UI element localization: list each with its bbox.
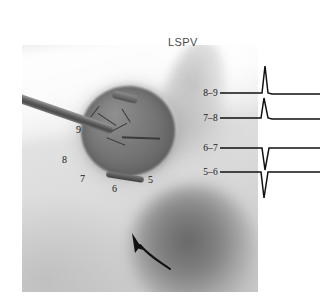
endoscopic-photograph: 9 8 7 6 5 (22, 45, 258, 292)
site-number-8: 8 (62, 155, 67, 165)
curved-arrow-icon (118, 223, 174, 271)
site-number-7: 7 (80, 174, 85, 184)
site-number-5: 5 (148, 175, 153, 185)
trace-label-6-7: 6–7 (192, 143, 218, 153)
trace-label-7-8: 7–8 (192, 113, 218, 123)
site-number-9: 9 (76, 125, 81, 135)
site-number-6: 6 (112, 184, 117, 194)
trace-label-5-6: 5–6 (192, 167, 218, 177)
lspv-label: LSPV (168, 36, 198, 48)
figure-panel: 9 8 7 6 5 LSPV 8–9 7–8 6–7 5–6 (0, 0, 330, 305)
trace-label-8-9: 8–9 (192, 88, 218, 98)
